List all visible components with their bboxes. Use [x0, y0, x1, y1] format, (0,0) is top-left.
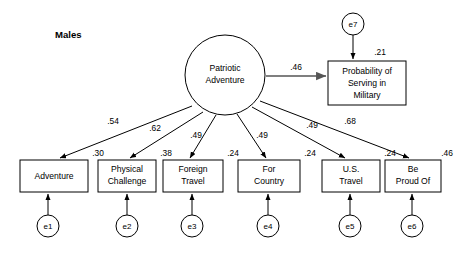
latent-label-line2: Adventure — [205, 75, 244, 85]
foreign-travel-variance-label: .24 — [227, 148, 239, 158]
physical-challenge-label-line2: Challenge — [108, 176, 147, 186]
physical-challenge-variance-label: .38 — [160, 148, 172, 158]
e4-label: e4 — [264, 222, 273, 231]
adventure-loading-label: .54 — [107, 116, 119, 126]
error-node-e2[interactable]: e2 — [116, 215, 138, 237]
outcome-label-line3: Military — [353, 90, 381, 100]
physical-challenge-label-line1: Physical — [111, 164, 143, 174]
be-proud-of-variance-label: .46 — [441, 148, 453, 158]
latent-label-line1: Patriotic — [209, 63, 241, 73]
error-node-e6[interactable]: e6 — [401, 215, 423, 237]
error-node-e3[interactable]: e3 — [181, 215, 203, 237]
us-travel-label-line2: Travel — [339, 176, 363, 186]
indicator-for-country[interactable]: For Country — [238, 160, 300, 192]
outcome-label-line1: Probability of — [342, 66, 392, 76]
e3-label: e3 — [188, 222, 197, 231]
us-travel-label-line1: U.S. — [343, 164, 360, 174]
path-latent-to-adventure — [60, 106, 192, 158]
e7-label: e7 — [349, 20, 358, 29]
outcome-probability-serving-military[interactable]: Probability of Serving in Military — [328, 61, 406, 105]
indicator-adventure[interactable]: Adventure — [20, 160, 88, 192]
us-travel-variance-label: .24 — [384, 148, 396, 158]
physical-challenge-loading-label: .62 — [149, 123, 161, 133]
be-proud-of-loading-label: .68 — [344, 116, 356, 126]
for-country-loading-label: .49 — [256, 130, 268, 140]
outcome-label-line2: Serving in — [348, 78, 386, 88]
adventure-variance-label: .30 — [92, 148, 104, 158]
for-country-variance-label: .24 — [304, 148, 316, 158]
error-node-e1[interactable]: e1 — [37, 215, 59, 237]
e1-label: e1 — [44, 222, 53, 231]
indicator-foreign-travel[interactable]: Foreign Travel — [163, 160, 223, 192]
indicator-be-proud-of[interactable]: Be Proud Of — [385, 160, 441, 192]
be-proud-of-label-line2: Proud Of — [396, 176, 431, 186]
e5-label: e5 — [346, 222, 355, 231]
foreign-travel-label-line2: Travel — [181, 176, 205, 186]
structural-coefficient-label: .46 — [290, 62, 302, 72]
outcome-variance-label: .21 — [374, 47, 386, 57]
page-title: Males — [55, 29, 82, 40]
error-paths — [48, 194, 412, 215]
be-proud-of-label-line1: Be — [408, 164, 419, 174]
diagram-svg: Males Patriotic Adventure — [0, 0, 455, 276]
error-node-e4[interactable]: e4 — [257, 215, 279, 237]
e2-label: e2 — [123, 222, 132, 231]
indicator-us-travel[interactable]: U.S. Travel — [322, 160, 380, 192]
for-country-label-line2: Country — [254, 176, 285, 186]
e6-label: e6 — [408, 222, 417, 231]
foreign-travel-loading-label: .49 — [190, 130, 202, 140]
us-travel-loading-label: .49 — [306, 120, 318, 130]
latent-variable-patriotic-adventure[interactable]: Patriotic Adventure — [185, 35, 265, 115]
foreign-travel-label-line1: Foreign — [178, 164, 207, 174]
error-node-e7[interactable]: e7 — [342, 13, 364, 35]
indicator-physical-challenge[interactable]: Physical Challenge — [98, 160, 156, 192]
path-diagram-canvas: Males Patriotic Adventure — [0, 0, 455, 276]
for-country-label-line1: For — [263, 164, 276, 174]
adventure-label-line1: Adventure — [34, 171, 73, 181]
error-node-e5[interactable]: e5 — [339, 215, 361, 237]
